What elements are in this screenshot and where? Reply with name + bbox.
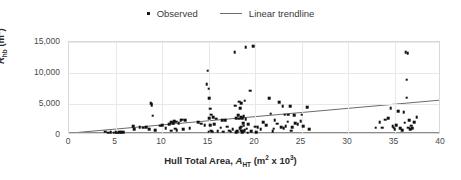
x-axis-tick-label: 20 <box>249 136 258 146</box>
y-axis-title-unit-sup: 2 <box>0 31 1 35</box>
gridline-vertical <box>162 42 163 133</box>
gridline-vertical <box>395 42 396 133</box>
x-axis-tick-label: 0 <box>66 136 71 146</box>
gridline-vertical <box>255 42 256 133</box>
data-point <box>287 114 290 117</box>
data-point <box>244 118 247 121</box>
data-point <box>215 118 218 121</box>
data-point <box>302 125 305 128</box>
data-point <box>416 116 419 119</box>
data-point <box>226 125 229 128</box>
data-point <box>405 79 408 82</box>
data-point <box>213 123 216 126</box>
data-point <box>148 128 151 131</box>
gridline-vertical <box>348 42 349 133</box>
y-axis-tick-label: 10,000 <box>34 67 60 77</box>
x-axis-tick-label: 15 <box>203 136 212 146</box>
data-point <box>255 131 258 134</box>
data-point <box>161 124 164 127</box>
data-point <box>239 107 242 110</box>
data-point <box>206 70 209 73</box>
data-point <box>308 128 311 131</box>
data-point <box>397 110 400 113</box>
line-segment-icon <box>220 13 242 14</box>
x-axis-title-prefix: Hull Total Area, <box>164 155 235 166</box>
data-point <box>296 123 299 126</box>
data-point <box>375 127 378 130</box>
data-point <box>151 114 154 117</box>
x-axis-title-unit-close: ) <box>294 155 297 166</box>
data-point <box>282 105 285 108</box>
data-point <box>300 113 303 116</box>
data-point <box>132 125 135 128</box>
data-point <box>293 114 296 117</box>
data-point <box>276 123 279 126</box>
data-point <box>408 119 411 122</box>
y-axis-title-unit-close: ) <box>0 28 6 31</box>
data-point <box>176 129 179 132</box>
data-point <box>265 124 268 127</box>
data-point <box>200 123 203 126</box>
data-point <box>244 46 247 49</box>
data-point <box>381 126 384 129</box>
legend-item-observed: Observed <box>147 8 198 19</box>
data-point <box>402 111 405 114</box>
data-point <box>278 101 281 104</box>
square-dot-icon <box>147 12 150 15</box>
x-axis-title: Hull Total Area, AHT (m2 x 103) <box>0 154 461 168</box>
data-point <box>189 127 192 130</box>
gridline-horizontal <box>69 104 439 105</box>
data-point <box>234 105 237 108</box>
data-point <box>395 124 398 127</box>
data-point <box>216 130 219 133</box>
x-axis-title-unit-mid: x 10 <box>269 155 290 166</box>
data-point <box>240 102 243 105</box>
data-point <box>393 128 396 131</box>
data-point <box>184 119 187 122</box>
data-point <box>401 129 404 132</box>
x-axis-ticks: 0510152025303540 <box>68 136 440 150</box>
data-point <box>222 131 225 134</box>
data-point <box>271 130 274 133</box>
data-point <box>170 129 173 132</box>
data-point <box>283 113 286 116</box>
data-point <box>207 87 210 90</box>
data-point <box>273 119 276 122</box>
data-point <box>252 45 255 48</box>
data-point <box>291 126 294 129</box>
gridline-vertical <box>116 42 117 133</box>
data-point <box>259 128 262 131</box>
data-point <box>403 121 406 124</box>
x-axis-tick-label: 35 <box>389 136 398 146</box>
plot-area <box>68 41 440 134</box>
x-axis-tick-label: 10 <box>156 136 165 146</box>
legend-label-observed: Observed <box>157 8 198 19</box>
gridline-horizontal <box>69 42 439 43</box>
data-point <box>250 130 253 133</box>
data-point <box>389 107 392 110</box>
x-axis-tick-label: 30 <box>342 136 351 146</box>
data-point <box>219 126 222 129</box>
scatter-chart: Observed Linear trendline Rhb (m2) 05,00… <box>0 0 461 180</box>
data-point <box>406 52 409 55</box>
x-axis-title-unit-open: (m <box>251 155 265 166</box>
data-point <box>249 89 252 92</box>
data-point <box>233 51 236 54</box>
data-point <box>283 127 286 130</box>
data-point <box>272 127 275 130</box>
data-point <box>209 107 212 110</box>
data-point <box>205 83 208 86</box>
y-axis-tick-label: 15,000 <box>34 36 60 46</box>
data-point <box>243 99 246 102</box>
data-point <box>164 127 167 130</box>
data-point <box>235 131 238 134</box>
data-point <box>306 106 309 109</box>
data-point <box>289 105 292 108</box>
data-point <box>154 129 157 132</box>
x-axis-title-sub: HT <box>242 161 251 168</box>
data-point <box>231 128 234 131</box>
data-point <box>247 123 250 126</box>
y-axis-tick-label: 5,000 <box>39 98 60 108</box>
data-point <box>182 128 185 131</box>
data-point <box>411 127 414 130</box>
